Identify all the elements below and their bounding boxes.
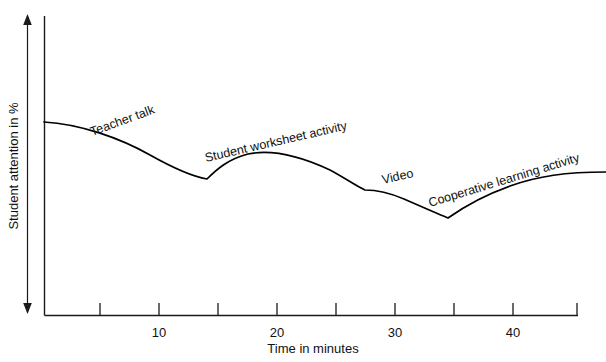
x-tick-label-20: 20 xyxy=(270,325,284,340)
annotation-student-worksheet-activity: Student worksheet activity xyxy=(204,118,349,164)
annotation-video: Video xyxy=(381,166,415,187)
x-tick-label-10: 10 xyxy=(152,325,166,340)
x-tick-label-40: 40 xyxy=(506,325,520,340)
x-axis-title: Time in minutes xyxy=(267,341,359,356)
annotation-teacher-talk: Teacher talk xyxy=(88,102,157,138)
chart-figure: 10 20 30 40 Time in minutes Student atte… xyxy=(0,0,606,362)
x-tick-label-30: 30 xyxy=(388,325,402,340)
attention-curve-chart: 10 20 30 40 Time in minutes Student atte… xyxy=(0,0,606,362)
y-arrow-head-bottom xyxy=(23,303,32,314)
annotation-cooperative-learning-activity: Cooperative learning activity xyxy=(427,150,582,210)
y-axis-title: Student attention in % xyxy=(6,102,21,230)
y-axis-arrow xyxy=(23,14,32,314)
y-arrow-head-top xyxy=(23,14,32,25)
x-axis-ticks xyxy=(100,303,577,316)
